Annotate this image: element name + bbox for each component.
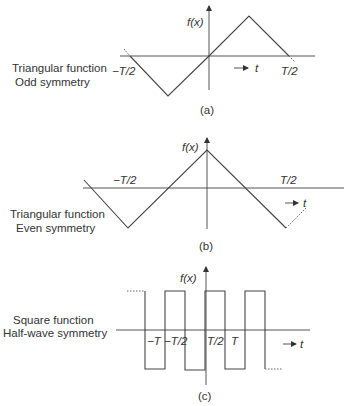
- panel-a-title: Triangular function: [12, 62, 107, 74]
- panel-b: Triangular function Even symmetry f(x) −…: [10, 138, 344, 252]
- y-axis-label: f(x): [180, 272, 197, 284]
- panel-c-subtitle: Half-wave symmetry: [3, 327, 107, 339]
- wave-continuation-right: [289, 56, 295, 62]
- x-axis-label: t: [255, 62, 259, 74]
- tick-label-neg-half-period: −T/2: [164, 335, 188, 347]
- panel-b-subtitle: Even symmetry: [16, 222, 95, 234]
- panel-c: Square function Half-wave symmetry f(x) …: [3, 267, 310, 402]
- panel-a: Triangular function Odd symmetry f(x) t …: [12, 6, 315, 116]
- x-axis-label: t: [300, 338, 304, 350]
- tick-label-neg-half-period: −T/2: [112, 65, 136, 77]
- panel-a-caption: (a): [200, 104, 214, 116]
- panel-c-title: Square function: [13, 314, 94, 326]
- tick-label-half-period: T/2: [280, 174, 297, 186]
- tick-label-period: T: [231, 335, 239, 347]
- symmetry-diagram: Triangular function Odd symmetry f(x) t …: [0, 0, 350, 406]
- y-axis-label: f(x): [187, 16, 204, 28]
- tick-label-half-period: T/2: [281, 65, 298, 77]
- wave-continuation-right: [286, 208, 306, 228]
- triangle-wave: [84, 150, 286, 228]
- x-axis-label: t: [303, 197, 307, 209]
- y-axis-label: f(x): [182, 141, 199, 153]
- tick-label-neg-period: −T: [147, 335, 162, 347]
- panel-b-title: Triangular function: [10, 208, 105, 220]
- panel-c-caption: (c): [198, 390, 212, 402]
- tick-label-half-period: T/2: [207, 335, 224, 347]
- panel-a-subtitle: Odd symmetry: [15, 76, 90, 88]
- wave-continuation-left: [124, 49, 130, 56]
- panel-b-caption: (b): [199, 240, 213, 252]
- tick-label-neg-half-period: −T/2: [113, 174, 137, 186]
